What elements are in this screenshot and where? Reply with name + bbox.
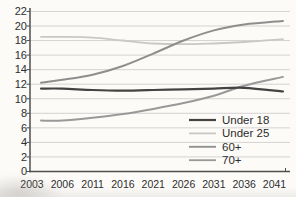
y-tick-label-16: 16 xyxy=(15,49,27,61)
x-tick-label-2041: 2041 xyxy=(263,178,287,190)
y-tick-label-10: 10 xyxy=(15,93,27,105)
series-line-under-18 xyxy=(41,88,283,92)
y-tick-label-6: 6 xyxy=(21,122,27,134)
y-tick-label-2: 2 xyxy=(21,151,27,163)
x-tick-label-2011: 2011 xyxy=(81,178,104,190)
y-tick-label-18: 18 xyxy=(15,34,27,46)
y-tick-label-0: 0 xyxy=(21,165,27,177)
legend-label-under-25: Under 25 xyxy=(222,127,269,139)
legend-label-under-18: Under 18 xyxy=(222,114,269,126)
x-tick-label-2026: 2026 xyxy=(172,178,196,190)
y-tick-label-4: 4 xyxy=(21,136,27,148)
x-tick-label-2021: 2021 xyxy=(142,178,166,190)
y-tick-label-8: 8 xyxy=(21,107,27,119)
x-tick-label-2006: 2006 xyxy=(51,178,75,190)
line-chart: 0246810121416182022200320062011201620212… xyxy=(0,0,296,197)
series-line-60- xyxy=(41,21,283,83)
line-chart-canvas: 0246810121416182022200320062011201620212… xyxy=(0,0,296,197)
y-tick-label-14: 14 xyxy=(15,63,27,75)
y-tick-label-12: 12 xyxy=(15,78,27,90)
y-tick-label-22: 22 xyxy=(15,5,27,17)
x-tick-label-2036: 2036 xyxy=(233,178,257,190)
y-tick-label-20: 20 xyxy=(15,20,27,32)
x-tick-label-2016: 2016 xyxy=(111,178,135,190)
x-tick-label-2031: 2031 xyxy=(202,178,226,190)
legend-label-70-: 70+ xyxy=(222,154,242,166)
x-tick-label-2003: 2003 xyxy=(20,178,44,190)
legend-label-60-: 60+ xyxy=(222,141,242,153)
